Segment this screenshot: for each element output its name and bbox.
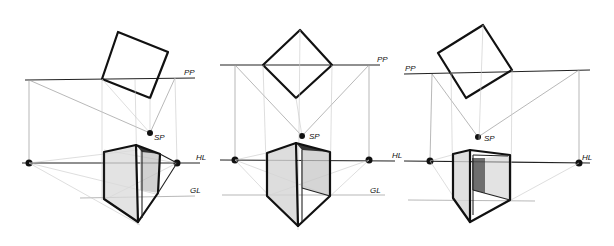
hl-label: HL xyxy=(582,153,592,162)
sight-line xyxy=(235,65,302,136)
hl-label: HL xyxy=(196,153,206,162)
cube-perspective xyxy=(453,150,510,222)
station-point-dot xyxy=(475,134,481,140)
panel-left: PP HL GL SP xyxy=(22,32,206,225)
sight-line xyxy=(432,74,478,137)
picture-plane-line xyxy=(25,78,195,80)
ground-line xyxy=(408,200,535,201)
sight-line xyxy=(302,65,369,136)
hl-label: HL xyxy=(392,151,402,160)
pp-label: PP xyxy=(377,55,388,64)
sp-label: SP xyxy=(309,132,320,141)
picture-plane-line xyxy=(404,70,590,74)
sight-line xyxy=(478,70,579,137)
gl-label: GL xyxy=(370,186,381,195)
perspective-sketch-canvas: PP HL GL SP xyxy=(0,0,614,246)
sp-label: SP xyxy=(154,133,165,142)
gl-label: GL xyxy=(190,186,201,195)
panel-center: PP HL GL SP xyxy=(220,30,402,230)
panel-right: PP HL SP xyxy=(404,25,592,222)
pp-label: PP xyxy=(184,68,195,77)
plan-square xyxy=(263,30,332,98)
plan-square xyxy=(438,25,512,98)
sp-label: SP xyxy=(484,134,495,143)
station-point-dot xyxy=(147,130,153,136)
station-point-dot xyxy=(299,133,305,139)
sight-line xyxy=(29,80,150,133)
pp-label: PP xyxy=(405,64,416,73)
cube-perspective xyxy=(104,145,177,222)
